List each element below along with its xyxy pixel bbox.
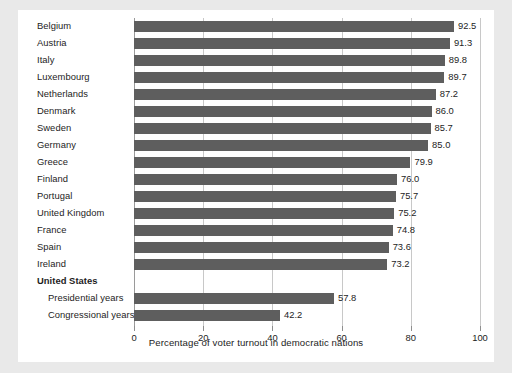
bar-row: France74.8 bbox=[18, 222, 494, 239]
bar-value-label: 74.8 bbox=[397, 223, 415, 237]
bar bbox=[134, 21, 454, 32]
x-axis-tick-0 bbox=[134, 326, 135, 331]
bar bbox=[134, 225, 393, 236]
category-label: Finland bbox=[37, 172, 137, 186]
bar bbox=[134, 72, 444, 83]
category-label: Germany bbox=[37, 138, 137, 152]
bar bbox=[134, 140, 428, 151]
bar-row: Luxembourg89.7 bbox=[18, 69, 494, 86]
category-label: Luxembourg bbox=[37, 70, 137, 84]
category-label: Netherlands bbox=[37, 87, 137, 101]
bar-value-label: 75.2 bbox=[398, 206, 416, 220]
bar-value-label: 91.3 bbox=[454, 36, 472, 50]
bar-value-label: 86.0 bbox=[436, 104, 454, 118]
chart-figure: 020406080100Belgium92.5Austria91.3Italy8… bbox=[18, 10, 494, 362]
x-axis-tick-80 bbox=[411, 326, 412, 331]
bar-row: Finland76.0 bbox=[18, 171, 494, 188]
bar-row: United Kingdom75.2 bbox=[18, 205, 494, 222]
bar bbox=[134, 208, 394, 219]
category-label: United States bbox=[37, 274, 137, 288]
bar bbox=[134, 89, 436, 100]
category-label: Italy bbox=[37, 53, 137, 67]
bar bbox=[134, 38, 450, 49]
bar-row: Portugal75.7 bbox=[18, 188, 494, 205]
category-label: Portugal bbox=[37, 189, 137, 203]
category-label: Ireland bbox=[37, 257, 137, 271]
category-label: Belgium bbox=[37, 19, 137, 33]
bar bbox=[134, 191, 396, 202]
bar bbox=[134, 106, 432, 117]
bar-value-label: 79.9 bbox=[414, 155, 432, 169]
category-label: United Kingdom bbox=[37, 206, 137, 220]
bar-row: Italy89.8 bbox=[18, 52, 494, 69]
bar bbox=[134, 259, 387, 270]
category-label: Denmark bbox=[37, 104, 137, 118]
bar-row: Austria91.3 bbox=[18, 35, 494, 52]
bar bbox=[134, 242, 389, 253]
category-label: Congressional years bbox=[48, 308, 148, 322]
bar bbox=[134, 123, 431, 134]
bar-row: Denmark86.0 bbox=[18, 103, 494, 120]
bar-value-label: 75.7 bbox=[400, 189, 418, 203]
bar bbox=[134, 157, 410, 168]
bar-row: Netherlands87.2 bbox=[18, 86, 494, 103]
bar-value-label: 73.6 bbox=[393, 240, 411, 254]
x-axis-caption: Percentage of voter turnout in democrati… bbox=[18, 337, 494, 348]
bar-row: Sweden85.7 bbox=[18, 120, 494, 137]
bar bbox=[134, 174, 397, 185]
bar-value-label: 89.8 bbox=[449, 53, 467, 67]
bar-value-label: 85.0 bbox=[432, 138, 450, 152]
bar-row: United States bbox=[18, 273, 494, 290]
bar bbox=[134, 310, 280, 321]
bar-value-label: 92.5 bbox=[458, 19, 476, 33]
bar-value-label: 76.0 bbox=[401, 172, 419, 186]
bar-chart-plot-area: 020406080100Belgium92.5Austria91.3Italy8… bbox=[18, 10, 494, 362]
bar-value-label: 73.2 bbox=[391, 257, 409, 271]
x-axis-tick-40 bbox=[272, 326, 273, 331]
category-label: Austria bbox=[37, 36, 137, 50]
bar-row: Congressional years42.2 bbox=[18, 307, 494, 324]
bar-row: Presidential years57.8 bbox=[18, 290, 494, 307]
bar-value-label: 42.2 bbox=[284, 308, 302, 322]
category-label: France bbox=[37, 223, 137, 237]
x-axis-tick-60 bbox=[342, 326, 343, 331]
category-label: Greece bbox=[37, 155, 137, 169]
bar-row: Ireland73.2 bbox=[18, 256, 494, 273]
bar-value-label: 87.2 bbox=[440, 87, 458, 101]
bar bbox=[134, 293, 334, 304]
bar-row: Greece79.9 bbox=[18, 154, 494, 171]
category-label: Spain bbox=[37, 240, 137, 254]
bar-row: Germany85.0 bbox=[18, 137, 494, 154]
bar-row: Spain73.6 bbox=[18, 239, 494, 256]
bar-value-label: 89.7 bbox=[448, 70, 466, 84]
category-label: Sweden bbox=[37, 121, 137, 135]
category-label: Presidential years bbox=[48, 291, 148, 305]
x-axis-tick-20 bbox=[203, 326, 204, 331]
bar-row: Belgium92.5 bbox=[18, 18, 494, 35]
bar-value-label: 85.7 bbox=[435, 121, 453, 135]
bar-value-label: 57.8 bbox=[338, 291, 356, 305]
bar bbox=[134, 55, 445, 66]
x-axis-tick-100 bbox=[480, 326, 481, 331]
